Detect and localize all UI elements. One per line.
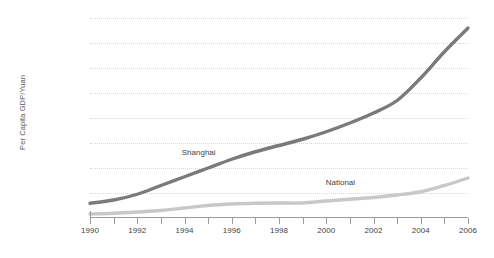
x-axis-tick-mark <box>208 218 209 224</box>
per-capita-gdp-line-chart: Per Capita GDP/Yuan 010,00020,00030,0004… <box>0 0 494 258</box>
x-axis-tick-label: 1996 <box>223 226 241 235</box>
x-axis-tick-mark <box>303 218 304 224</box>
x-axis-tick-mark <box>468 218 469 224</box>
plot-area: 010,00020,00030,00040,00050,00060,00070,… <box>90 18 468 218</box>
x-axis-tick-label: 1990 <box>81 226 99 235</box>
series-lines <box>90 18 468 218</box>
x-axis-tick-label: 1994 <box>176 226 194 235</box>
series-line-shanghai <box>90 28 468 203</box>
x-axis-tick-label: 2006 <box>459 226 477 235</box>
series-label-shanghai: Shanghai <box>182 147 216 156</box>
x-axis-tick-mark <box>421 218 422 224</box>
series-line-national <box>90 178 468 214</box>
x-axis: 199019921994199619982000200220042006 <box>90 218 468 248</box>
x-axis-tick-label: 1998 <box>270 226 288 235</box>
x-axis-tick-label: 2004 <box>412 226 430 235</box>
x-axis-tick-mark <box>374 218 375 224</box>
x-axis-tick-mark <box>185 218 186 224</box>
x-axis-tick-mark <box>232 218 233 224</box>
x-axis-tick-mark <box>114 218 115 224</box>
x-axis-tick-mark <box>279 218 280 224</box>
x-axis-tick-mark <box>350 218 351 224</box>
x-axis-tick-mark <box>397 218 398 224</box>
x-axis-tick-mark <box>90 218 91 224</box>
series-label-national: National <box>326 177 355 186</box>
x-axis-tick-mark <box>444 218 445 224</box>
x-axis-tick-label: 2000 <box>317 226 335 235</box>
y-axis-title: Per Capita GDP/Yuan <box>18 43 27 183</box>
x-axis-tick-mark <box>137 218 138 224</box>
x-axis-tick-label: 1992 <box>128 226 146 235</box>
x-axis-tick-mark <box>255 218 256 224</box>
x-axis-tick-mark <box>326 218 327 224</box>
x-axis-tick-label: 2002 <box>365 226 383 235</box>
y-axis-stub <box>90 211 91 218</box>
x-axis-tick-mark <box>161 218 162 224</box>
